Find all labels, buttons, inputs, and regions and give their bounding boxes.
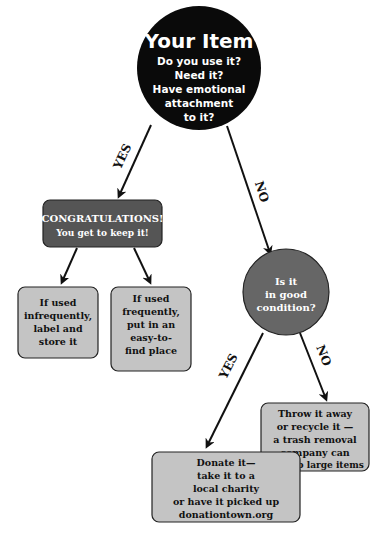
leaf-frequent-line-1: If used	[133, 293, 170, 304]
condition-node-line-2: in good	[265, 289, 307, 300]
flowchart: YES NO YES NO Your Item Do you use it? N…	[0, 0, 388, 541]
keep-node: CONGRATULATIONS! You get to keep it!	[42, 200, 164, 247]
start-node: Your Item Do you use it? Need it? Have e…	[137, 6, 261, 130]
leaf-donate-line-5: donationtown.org	[179, 509, 274, 520]
keep-node-title: CONGRATULATIONS!	[42, 213, 164, 224]
leaf-frequent-line-3: put in an	[127, 319, 175, 330]
leaf-infrequent-line-3: label and	[33, 323, 82, 334]
leaf-infrequent-line-1: If used	[40, 297, 77, 308]
start-node-line-5: to it?	[184, 111, 215, 123]
edge-label-start-no: NO	[252, 179, 272, 204]
leaf-donate-line-4: or have it picked up	[173, 496, 279, 507]
leaf-donate-line-1: Donate it—	[197, 457, 256, 468]
leaf-discard-line-1: Throw it away	[278, 408, 353, 419]
condition-node-line-3: condition?	[256, 302, 315, 313]
leaf-infrequent-line-4: store it	[39, 336, 78, 347]
condition-node: Is it in good condition?	[243, 249, 329, 335]
edge-condition-yes	[207, 333, 263, 446]
edge-keep-right	[134, 248, 150, 282]
leaf-discard-line-2: or recycle it —	[277, 421, 354, 432]
start-node-line-3: Have emotional	[153, 83, 246, 95]
start-node-line-2: Need it?	[175, 69, 224, 81]
edge-label-start-yes: YES	[110, 141, 134, 172]
leaf-donate: Donate it— take it to a local charity or…	[152, 452, 300, 522]
edge-keep-left	[62, 248, 77, 282]
leaf-infrequent: If used infrequently, label and store it	[18, 287, 98, 358]
leaf-frequent-line-4: easy-to-	[130, 332, 172, 343]
start-node-line-4: attachment	[165, 97, 233, 109]
keep-node-subtitle: You get to keep it!	[55, 228, 149, 238]
leaf-frequent-line-2: frequently,	[122, 306, 180, 318]
leaf-frequent: If used frequently, put in an easy-to- f…	[111, 287, 191, 371]
leaf-donate-line-3: local charity	[193, 483, 260, 494]
leaf-infrequent-line-2: infrequently,	[24, 310, 92, 322]
leaf-donate-line-2: take it to a	[197, 470, 255, 481]
edge-label-condition-no: NO	[313, 343, 334, 368]
start-node-title: Your Item	[144, 29, 254, 53]
leaf-frequent-line-5: find place	[125, 345, 177, 356]
start-node-line-1: Do you use it?	[157, 55, 241, 67]
edge-label-condition-yes: YES	[216, 351, 241, 382]
leaf-discard-line-3: a trash removal	[273, 434, 357, 445]
condition-node-line-1: Is it	[275, 276, 298, 287]
